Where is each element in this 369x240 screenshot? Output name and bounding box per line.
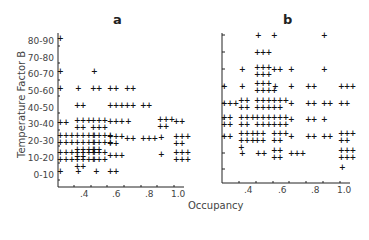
data-point-cluster: ++ ++: [254, 130, 265, 144]
data-point-cluster: ++: [221, 133, 232, 140]
data-point-cluster: +: [255, 32, 261, 39]
data-point-cluster: ++: [124, 85, 135, 92]
data-point-cluster: +++ +++: [254, 97, 271, 111]
data-point-cluster: ++: [305, 100, 316, 107]
data-point-cluster: +: [57, 68, 63, 75]
data-point-cluster: +++ ++: [107, 133, 124, 147]
data-point-cluster: +: [57, 35, 63, 42]
data-point-cluster: +: [288, 66, 294, 73]
data-point-cluster: +++ +++ +: [238, 130, 255, 151]
data-point-cluster: +: [221, 83, 227, 90]
data-point-cluster: ++ ++: [271, 147, 282, 161]
data-point-cluster: +++ ++: [238, 114, 255, 128]
data-point-cluster: +: [288, 116, 294, 123]
data-point-cluster: +++: [288, 150, 305, 157]
data-point-cluster: ++: [271, 66, 282, 73]
data-point-cluster: +: [125, 118, 131, 125]
x-tick-label: .6: [278, 185, 287, 195]
x-tick-label: .8: [311, 185, 320, 195]
data-point-cluster: ++: [338, 100, 349, 107]
data-point-cluster: +: [75, 85, 81, 92]
data-point-cluster: +++ +++: [90, 117, 107, 131]
data-point-cluster: ++: [124, 102, 135, 109]
data-point-cluster: ++: [107, 85, 118, 92]
data-point-cluster: ++: [57, 119, 68, 126]
data-point-cluster: +++ ++: [338, 130, 355, 144]
data-point-cluster: +++ +++: [254, 114, 271, 128]
data-point-cluster: +++ ++: [157, 116, 174, 130]
x-tick-label: 1.0: [337, 185, 351, 195]
data-point-cluster: +: [239, 66, 245, 73]
x-tick-label: .8: [145, 189, 154, 199]
data-point-cluster: +++ +++: [173, 149, 190, 163]
data-point-cluster: +++ ++: [173, 133, 190, 147]
data-point-cluster: +: [288, 100, 294, 107]
data-point-cluster: +: [158, 151, 164, 158]
data-point-cluster: +++ ++: [271, 130, 288, 144]
data-point-cluster: +: [321, 32, 327, 39]
data-point-cluster: +++: [140, 135, 157, 142]
data-point-cluster: ++: [124, 135, 135, 142]
data-point-cluster: +++: [338, 83, 355, 90]
data-point-cluster: +++ +++: [271, 114, 288, 128]
x-axis-title: Occupancy: [188, 200, 243, 211]
data-point-cluster: ++: [321, 133, 332, 140]
data-point-cluster: +: [57, 168, 63, 175]
x-tick-label: .6: [112, 189, 121, 199]
x-tick-label: .4: [244, 185, 253, 195]
data-point-cluster: +++ +++: [57, 149, 74, 163]
data-point-cluster: +++: [107, 152, 124, 159]
data-point-cluster: ++: [74, 102, 85, 109]
data-point-cluster: +: [57, 85, 63, 92]
data-point-cluster: +: [288, 83, 294, 90]
data-point-cluster: +: [93, 168, 99, 175]
data-point-cluster: ++ ++: [238, 97, 249, 111]
data-point-cluster: +: [272, 83, 278, 90]
data-point-cluster: +: [239, 83, 245, 90]
data-point-cluster: ++: [255, 150, 266, 157]
data-point-cluster: +++ +++: [254, 64, 271, 78]
data-point-cluster: +++: [107, 102, 124, 109]
data-point-cluster: ++: [107, 168, 118, 175]
x-tick-label: 1.0: [171, 189, 185, 199]
data-point-cluster: +: [321, 66, 327, 73]
data-point-cluster: +++ +++: [57, 132, 74, 146]
data-point-cluster: +: [271, 32, 277, 39]
data-point-cluster: ++: [173, 118, 184, 125]
data-point-cluster: ++: [305, 83, 316, 90]
data-point-cluster: +++ +++: [338, 147, 355, 161]
data-point-cluster: +++: [107, 118, 124, 125]
data-point-cluster: ++: [305, 133, 316, 140]
data-point-cluster: +: [239, 150, 245, 157]
data-point-cluster: ++: [305, 116, 316, 123]
data-point-cluster: +++: [221, 100, 238, 107]
data-point-cluster: ++: [90, 85, 101, 92]
data-point-cluster: +: [91, 68, 97, 75]
data-point-cluster: +++ ++: [74, 117, 91, 131]
data-point-cluster: ++ ++: [221, 114, 232, 128]
data-point-cluster: +: [75, 168, 81, 175]
data-point-cluster: +++: [254, 49, 271, 56]
data-point-cluster: ++: [140, 102, 151, 109]
data-point-cluster: +++ +++: [90, 149, 107, 163]
x-tick-label: .4: [80, 189, 89, 199]
data-point-cluster: +: [339, 164, 345, 171]
data-point-cluster: ++: [321, 100, 332, 107]
data-point-cluster: +: [321, 116, 327, 123]
data-point-cluster: +: [288, 133, 294, 140]
data-point-cluster: +++ ++: [271, 97, 288, 111]
data-point-cluster: +: [158, 134, 164, 141]
